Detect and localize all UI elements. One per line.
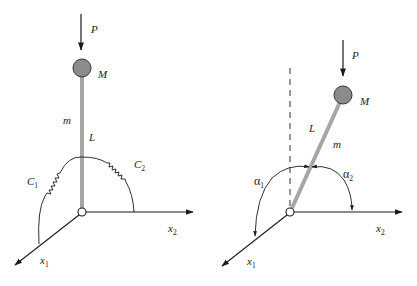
spring-c1-label: C1 — [27, 175, 38, 190]
angle-alpha1-arc — [255, 166, 309, 236]
angle-alpha1-label: α1 — [254, 174, 264, 190]
rod-mass-label: m — [333, 138, 341, 150]
length-label: L — [88, 131, 95, 143]
spring-c2 — [107, 163, 126, 182]
right-figure: P M L m x2 x1 α1 α2 — [222, 40, 402, 270]
pivot — [286, 208, 294, 216]
length-label: L — [308, 122, 315, 134]
mass-circle — [334, 86, 352, 104]
mass-circle — [73, 59, 91, 77]
rod-mass-label: m — [63, 114, 71, 126]
mass-label: M — [97, 68, 108, 80]
axis-x1-label: x1 — [246, 255, 256, 270]
left-figure: P M m L x2 x1 C1 C2 — [15, 14, 193, 269]
arc-left-lower — [39, 196, 45, 244]
load-label: P — [351, 49, 359, 61]
axis-x1-label: x1 — [39, 254, 49, 269]
diagram-canvas: P M m L x2 x1 C1 C2 P — [0, 0, 417, 286]
axis-x2-label: x2 — [375, 222, 385, 237]
spring-c1 — [45, 173, 60, 196]
axis-x1 — [15, 215, 79, 265]
axis-x1 — [222, 215, 287, 266]
pivot — [78, 208, 86, 216]
axis-x2-label: x2 — [167, 222, 177, 237]
arc-right-lower — [126, 182, 134, 212]
spring-c2-label: C2 — [134, 158, 145, 173]
rod-tilted — [292, 102, 340, 208]
angle-alpha2-label: α2 — [343, 167, 353, 183]
mass-label: M — [359, 95, 370, 107]
load-label: P — [90, 23, 98, 35]
